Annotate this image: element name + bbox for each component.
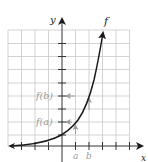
y-axis-label: y xyxy=(49,14,56,25)
function-label: f xyxy=(103,15,110,28)
f-of-b-label: f(b) xyxy=(35,90,53,101)
x-axis-label: x xyxy=(141,153,146,162)
b-label: b xyxy=(86,151,92,161)
exponential-function-graph: y f x f(b) f(a) a b xyxy=(0,0,148,162)
axes xyxy=(10,19,142,162)
a-label: a xyxy=(73,151,78,161)
grid xyxy=(8,30,130,146)
f-of-a-label: f(a) xyxy=(35,116,53,127)
